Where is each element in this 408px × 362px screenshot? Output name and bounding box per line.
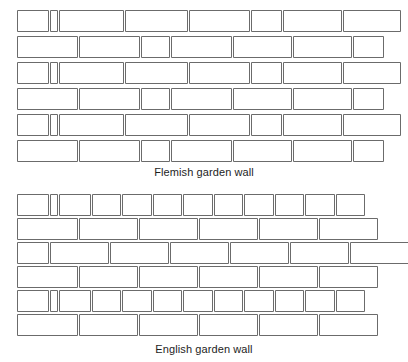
brick-header [60,291,91,312]
english-wall-caption: English garden wall [0,343,408,355]
brick-header [18,291,49,312]
brick-header [18,63,49,84]
brick-stretcher [234,37,292,58]
brick-course [18,11,401,32]
flemish-wall-svg [0,0,408,165]
brick-stretcher [126,63,188,84]
brick-stretcher [344,63,401,84]
brick-stretcher [80,315,138,336]
brick-stretcher [18,141,78,162]
brick-stretcher [18,219,78,240]
brick-stretcher [172,37,232,58]
brick-stretcher [60,63,124,84]
brick-stretcher [284,115,342,136]
brick-stretcher [80,89,140,110]
brick-course [18,315,378,336]
brick-stretcher [190,115,250,136]
brick-header [123,195,152,216]
brick-stretcher [51,243,109,264]
brick-course [18,291,365,312]
brick-queen-closer [51,195,58,216]
brick-stretcher [18,267,78,288]
brick-header [60,195,91,216]
brick-queen-closer [51,291,58,312]
brick-header [276,195,304,216]
brick-stretcher [234,89,292,110]
brick-header [337,291,365,312]
brick-stretcher [294,89,352,110]
brick-header [184,291,213,312]
brick-header [123,291,152,312]
brick-stretcher [80,219,138,240]
brick-course [18,89,384,110]
flemish-garden-wall-diagram [0,0,408,181]
brick-course [18,115,401,136]
brick-stretcher [190,63,250,84]
brick-header [154,291,182,312]
brick-header [337,195,365,216]
brick-course [18,267,378,288]
brick-header [142,141,170,162]
brick-stretcher [200,219,258,240]
brick-stretcher [260,219,318,240]
brick-header [306,195,335,216]
brick-header [184,195,213,216]
brick-bond-figure: Flemish garden wall English garden wall [0,0,408,362]
brick-stretcher [140,315,198,336]
brick-header [18,195,49,216]
brick-stretcher [294,141,352,162]
brick-stretcher [126,115,188,136]
brick-stretcher [320,219,378,240]
brick-stretcher [200,315,258,336]
brick-header [142,37,170,58]
brick-course [18,63,401,84]
brick-queen-closer [51,63,58,84]
brick-header [252,63,282,84]
brick-stretcher [200,267,258,288]
brick-header [245,195,274,216]
brick-queen-closer [51,11,58,32]
brick-stretcher [18,37,78,58]
brick-stretcher [320,267,378,288]
brick-header [93,291,121,312]
brick-header [306,291,335,312]
brick-queen-closer [51,115,58,136]
brick-course [18,141,384,162]
brick-header [18,115,49,136]
brick-header [215,195,243,216]
brick-course [18,37,384,58]
brick-header [93,195,121,216]
brick-stretcher [351,243,408,264]
brick-header [252,11,282,32]
brick-course [18,219,378,240]
brick-header [245,291,274,312]
brick-stretcher [140,219,198,240]
brick-header [142,89,170,110]
brick-header [18,11,49,32]
brick-header [154,195,182,216]
english-garden-wall-diagram [0,185,408,362]
brick-stretcher [140,267,198,288]
brick-stretcher [80,37,140,58]
brick-stretcher [284,11,342,32]
brick-stretcher [80,141,140,162]
english-wall-svg [0,185,408,341]
brick-header [276,291,304,312]
brick-course [18,195,365,216]
brick-stretcher [172,89,232,110]
brick-header [354,141,384,162]
brick-stretcher [260,315,318,336]
brick-stretcher [231,243,289,264]
brick-stretcher [172,141,232,162]
brick-stretcher [291,243,349,264]
brick-stretcher [234,141,292,162]
brick-stretcher [60,11,124,32]
brick-header [215,291,243,312]
brick-stretcher [320,315,378,336]
brick-header [18,243,49,264]
brick-stretcher [344,115,401,136]
brick-stretcher [190,11,250,32]
brick-stretcher [60,115,124,136]
brick-stretcher [126,11,188,32]
brick-header [252,115,282,136]
